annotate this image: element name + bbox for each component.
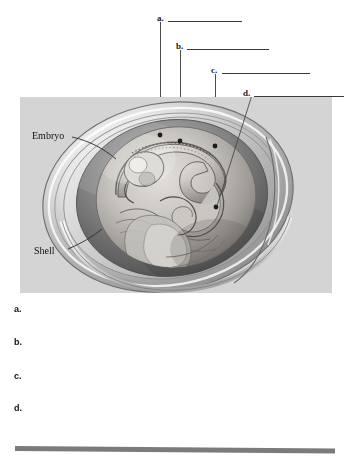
anchor-dot-c (213, 144, 218, 149)
answer-item-c[interactable]: c. (14, 371, 22, 381)
label-embryo: Embryo (32, 130, 64, 141)
label-shell: Shell (34, 245, 55, 256)
callout-answer-rule-b[interactable] (187, 49, 269, 50)
callout-answer-rule-a[interactable] (168, 21, 242, 22)
answer-item-a[interactable]: a. (14, 304, 22, 314)
callout-answer-rule-c[interactable] (222, 73, 310, 74)
answer-item-b[interactable]: b. (14, 337, 22, 347)
anchor-dot-b (178, 139, 183, 144)
anchor-dot-a (158, 133, 163, 138)
answer-item-d[interactable]: d. (14, 403, 22, 413)
bottom-divider-bar (15, 446, 335, 454)
worksheet-page: a. b. c. d. (0, 0, 352, 468)
egg-cross-section-graphic (20, 97, 332, 293)
egg-embryo-illustration (20, 97, 332, 293)
